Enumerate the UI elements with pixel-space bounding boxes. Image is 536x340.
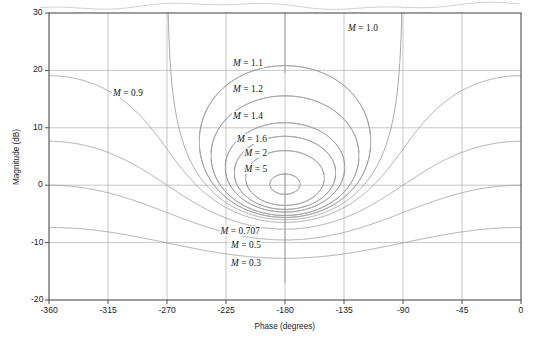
- contour-label-value: = 5: [255, 164, 268, 174]
- contour-label: M = 0.9: [112, 88, 144, 98]
- contour-label-symbol: M: [245, 148, 253, 158]
- y-axis-title: Magnitude (dB): [12, 129, 21, 185]
- contour-label: M = 5: [244, 164, 269, 174]
- contour-label-symbol: M: [245, 164, 253, 174]
- contour-label: M = 1.6: [236, 134, 268, 144]
- contour-label-symbol: M: [233, 58, 241, 68]
- contour-label-value: = 1.0: [358, 23, 378, 33]
- x-axis-title: Phase (degrees): [255, 322, 316, 331]
- x-tick-label: -45: [456, 305, 468, 315]
- contour-label-symbol: M: [233, 84, 241, 94]
- contour-label-value: = 2: [255, 148, 268, 158]
- contour-label-value: = 1.4: [243, 111, 263, 121]
- contour-label: M = 0.5: [230, 240, 262, 250]
- x-tick-label: -135: [336, 305, 353, 315]
- contour-label-symbol: M: [231, 258, 239, 268]
- contour-label: M = 2: [244, 148, 269, 158]
- x-tick-label: -90: [397, 305, 409, 315]
- contour-label-symbol: M: [231, 240, 239, 250]
- contour-label: M = 1.4: [232, 111, 264, 121]
- x-tick-label: 0: [519, 305, 524, 315]
- nichols-chart-figure: -360-315-270-225-180-135-90-4503020100-1…: [0, 0, 536, 340]
- x-tick-label: -360: [41, 305, 58, 315]
- y-tick-label: -20: [31, 294, 43, 304]
- contour-label-value: = 1.2: [243, 84, 263, 94]
- contour-label: M = 0.3: [230, 258, 262, 268]
- contour-label-value: = 1.1: [243, 58, 263, 68]
- y-tick-label: 20: [33, 64, 43, 74]
- contour-label-symbol: M: [237, 134, 245, 144]
- x-tick-label: -270: [159, 305, 176, 315]
- x-tick-label: -315: [100, 305, 117, 315]
- contour-label-value: = 0.5: [241, 240, 261, 250]
- y-tick-label: 30: [33, 7, 43, 17]
- x-tick-label: -180: [277, 305, 294, 315]
- contour-label: M = 1.0: [347, 23, 379, 33]
- y-tick-label: 10: [33, 122, 43, 132]
- y-tick-label: 0: [38, 179, 43, 189]
- contour-label-symbol: M: [221, 226, 229, 236]
- contour-label: M = 1.1: [232, 58, 264, 68]
- contour-label-symbol: M: [113, 88, 121, 98]
- contour-label-value: = 1.6: [247, 134, 267, 144]
- contour-label-symbol: M: [348, 23, 356, 33]
- x-tick-label: -225: [218, 305, 235, 315]
- y-tick-label: -10: [31, 237, 43, 247]
- contour-label-value: = 0.9: [123, 88, 143, 98]
- contour-label: M = 0.707: [220, 226, 261, 236]
- contour-label-symbol: M: [233, 111, 241, 121]
- contour-label-value: = 0.3: [241, 258, 261, 268]
- contour-label-value: = 0.707: [231, 226, 260, 236]
- contour-label: M = 1.2: [232, 84, 264, 94]
